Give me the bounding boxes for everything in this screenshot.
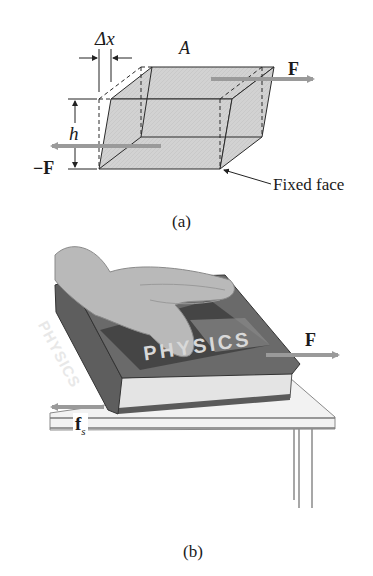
sheared-block [99,67,274,169]
delta-x-label: Δx [95,28,115,50]
fixed-face-label: Fixed face [273,175,344,195]
area-label: A [179,38,190,59]
friction-label: fs [73,413,88,437]
force-label-a: F [288,59,299,80]
delta-x-dimension [79,49,132,92]
fixed-face-pointer [224,170,271,184]
panel-a-diagram [0,0,373,576]
force-label-b: F [305,330,316,351]
panel-a-caption: (a) [172,212,191,232]
negative-force-label: −F [33,158,54,179]
panel-b-caption: (b) [183,542,203,562]
friction-subscript: s [81,425,85,437]
height-label: h [69,124,79,144]
table-leg [294,429,312,508]
panel-b-illustration [50,247,338,508]
shear-stress-figure: Δx A F h −F Fixed face (a) PHYSICS PHYSI… [0,0,373,576]
